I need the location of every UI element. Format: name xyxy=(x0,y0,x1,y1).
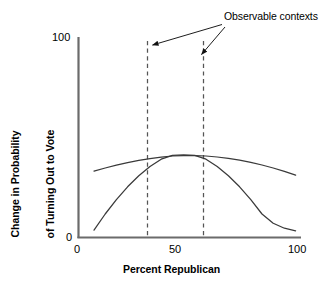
series-flat-curve xyxy=(94,156,296,176)
y-axis-tick-label-100: 100 xyxy=(52,31,70,43)
y-axis-title: Change in Probability of Turning Out to … xyxy=(0,104,80,264)
annotation-label: Observable contexts xyxy=(224,11,318,23)
y-axis-title-line-1: Change in Probability xyxy=(10,104,22,264)
annotation-arrow-left xyxy=(153,25,223,46)
chart-figure: Observable contexts 100 0 0 50 100 Perce… xyxy=(0,0,326,288)
x-axis-tick-label-50: 50 xyxy=(169,243,181,255)
y-axis-title-line-2: of Turning Out to Vote xyxy=(45,104,57,264)
annotation-arrow-right xyxy=(202,27,226,55)
x-axis-tick-label-100: 100 xyxy=(288,243,306,255)
x-axis-title: Percent Republican xyxy=(123,264,220,276)
